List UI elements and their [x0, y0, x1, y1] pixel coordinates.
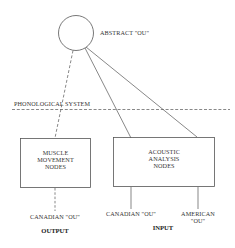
muscle-box-line2: MOVEMENT — [37, 156, 74, 163]
muscle-box-line3: NODES — [45, 163, 67, 170]
phonological-system-label: PHONOLOGICAL SYSTEM — [14, 100, 90, 107]
diagram-canvas: ABSTRACT "OU" PHONOLOGICAL SYSTEM MUSCLE… — [0, 0, 235, 248]
output-heading: OUTPUT — [41, 227, 69, 234]
input-american-label-line1: AMERICAN — [181, 210, 215, 217]
abstract-to-acoustic-line-right — [86, 47, 197, 137]
abstract-to-acoustic-line-left — [85, 48, 131, 138]
input-heading: INPUT — [153, 224, 174, 231]
abstract-node-circle — [59, 16, 94, 51]
output-item-label: CANADIAN "OU" — [30, 213, 80, 220]
acoustic-box-line3: NODES — [153, 162, 175, 169]
abstract-to-muscle-dashed-line — [55, 51, 73, 139]
acoustic-box-line2: ANALYSIS — [149, 155, 180, 162]
input-canadian-label: CANADIAN "OU" — [106, 210, 156, 217]
abstract-node-label: ABSTRACT "OU" — [100, 29, 149, 36]
acoustic-box-line1: ACOUSTIC — [148, 148, 180, 155]
input-american-label-line2: "OU" — [191, 217, 206, 224]
muscle-box-line1: MUSCLE — [43, 149, 69, 156]
